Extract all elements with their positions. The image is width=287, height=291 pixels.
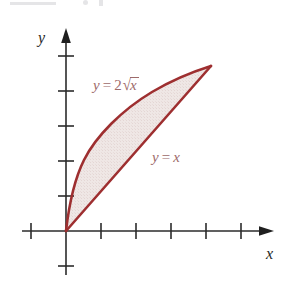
curve-label-lower: y=x	[152, 150, 180, 165]
x-axis	[22, 223, 274, 239]
curve-label-lower-equals: =	[159, 149, 173, 165]
y-axis	[58, 28, 74, 275]
curve-label-upper-coefficient: 2	[114, 77, 122, 93]
curve-label-lower-rhs: x	[173, 149, 180, 165]
curve-label-upper-equals: =	[100, 77, 114, 93]
x-axis-label: x	[266, 246, 273, 262]
curve-label-upper-y: y	[93, 77, 100, 93]
curve-label-lower-y: y	[152, 149, 159, 165]
curve-label-upper: y=2√x	[93, 78, 138, 93]
figure-container: y x y=2√x y=x	[0, 0, 287, 291]
radical-group: √x	[122, 78, 138, 93]
y-axis-label: y	[38, 30, 45, 46]
curve-lower-line	[66, 66, 211, 231]
curve-label-upper-radicand: x	[130, 78, 138, 93]
